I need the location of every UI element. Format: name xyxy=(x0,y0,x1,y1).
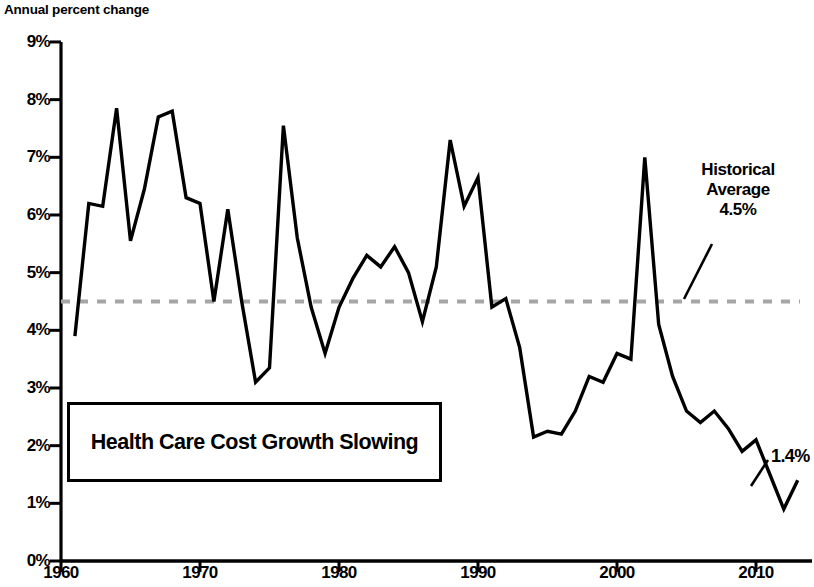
historical-average-annotation: Historical Average 4.5% xyxy=(672,160,804,220)
annotation-leader-line xyxy=(684,244,712,299)
caption-text: Health Care Cost Growth Slowing xyxy=(91,430,418,455)
caption-box: Health Care Cost Growth Slowing xyxy=(67,402,442,482)
historical-average-value: 4.5% xyxy=(672,200,804,220)
historical-average-line1: Historical xyxy=(672,160,804,180)
endpoint-value-label: 1.4% xyxy=(771,446,810,467)
chart-axes xyxy=(50,42,812,572)
historical-average-line2: Average xyxy=(672,180,804,200)
chart-plot-area xyxy=(0,0,814,587)
endpoint-label-leader-line xyxy=(751,460,768,486)
chart-container: Annual percent change 0%1%2%3%4%5%6%7%8%… xyxy=(0,0,814,587)
y-axis-ticks xyxy=(50,42,61,561)
